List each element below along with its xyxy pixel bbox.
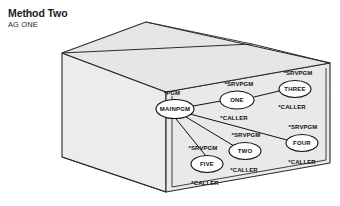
node-four-binder-label: *CALLER: [288, 159, 316, 165]
heading-block: Method Two AG ONE: [8, 7, 67, 30]
node-two-binder-label: *CALLER: [230, 167, 258, 173]
node-five-label: FIVE: [200, 161, 214, 167]
screenshot-root: Method Two AG ONE: [0, 0, 340, 206]
node-two-type-label: *SRVPGM: [232, 132, 261, 138]
node-five-binder-label: *CALLER: [191, 180, 219, 186]
node-three-label: THREE: [284, 86, 305, 92]
node-three-type-label: *SRVPGM: [284, 70, 313, 76]
node-two-label: TWO: [238, 148, 253, 154]
node-four-label: FOUR: [293, 140, 311, 146]
page-title: Method Two: [8, 7, 67, 19]
node-mainpgm-label: MAINPGM: [160, 106, 190, 112]
box-diagram-illustration: *PGM MAINPGM *SRVPGM ONE *CALLER *SRVPGM…: [0, 0, 340, 206]
node-one-type-label: *SRVPGM: [225, 81, 254, 87]
node-five-type-label: *SRVPGM: [189, 145, 218, 151]
page-subtitle: AG ONE: [8, 19, 67, 30]
node-three-binder-label: *CALLER: [278, 104, 306, 110]
node-mainpgm-type-label: *PGM: [164, 90, 180, 96]
node-four-type-label: *SRVPGM: [289, 124, 318, 130]
node-one-binder-label: *CALLER: [220, 115, 248, 121]
node-one-label: ONE: [230, 97, 244, 103]
